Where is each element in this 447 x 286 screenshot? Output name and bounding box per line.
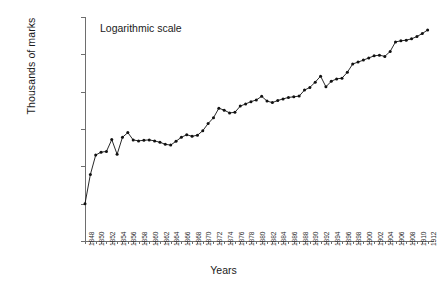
data-point bbox=[303, 89, 306, 92]
data-point bbox=[105, 150, 108, 153]
data-point bbox=[362, 59, 365, 62]
data-point bbox=[244, 102, 247, 105]
data-point bbox=[148, 138, 151, 141]
data-point bbox=[314, 81, 317, 84]
data-point bbox=[142, 139, 145, 142]
data-point bbox=[121, 136, 124, 139]
data-line bbox=[85, 30, 428, 204]
data-point bbox=[324, 85, 327, 88]
data-point bbox=[132, 138, 135, 141]
data-point bbox=[201, 129, 204, 132]
data-point bbox=[287, 96, 290, 99]
data-point bbox=[415, 35, 418, 38]
data-point bbox=[266, 100, 269, 103]
data-point bbox=[126, 131, 129, 134]
data-point bbox=[175, 140, 178, 143]
data-point bbox=[207, 122, 210, 125]
data-point bbox=[228, 111, 231, 114]
data-point bbox=[308, 86, 311, 89]
data-point bbox=[335, 77, 338, 80]
data-point bbox=[357, 61, 360, 64]
data-point bbox=[196, 134, 199, 137]
data-point bbox=[169, 144, 172, 147]
data-point bbox=[351, 63, 354, 66]
data-point bbox=[255, 98, 258, 101]
data-point bbox=[394, 40, 397, 43]
data-point bbox=[271, 101, 274, 104]
data-point bbox=[319, 75, 322, 78]
data-point bbox=[292, 95, 295, 98]
data-point bbox=[426, 28, 429, 31]
data-point bbox=[340, 77, 343, 80]
data-point bbox=[191, 135, 194, 138]
chart-figure: Thousands of marks Years Logarithmic sca… bbox=[0, 0, 447, 286]
data-point bbox=[110, 138, 113, 141]
data-point bbox=[239, 105, 242, 108]
data-point bbox=[158, 141, 161, 144]
data-point bbox=[137, 139, 140, 142]
data-point bbox=[223, 109, 226, 112]
data-point bbox=[217, 107, 220, 110]
data-point bbox=[233, 111, 236, 114]
data-point bbox=[367, 56, 370, 59]
data-point bbox=[180, 136, 183, 139]
data-point bbox=[399, 39, 402, 42]
data-point bbox=[421, 32, 424, 35]
data-point bbox=[378, 54, 381, 57]
data-point bbox=[94, 154, 97, 157]
data-point bbox=[100, 151, 103, 154]
data-point bbox=[346, 71, 349, 74]
data-point bbox=[276, 99, 279, 102]
data-point bbox=[330, 80, 333, 83]
data-point bbox=[164, 143, 167, 146]
data-point bbox=[383, 55, 386, 58]
data-point bbox=[89, 173, 92, 176]
data-point bbox=[212, 116, 215, 119]
data-point bbox=[282, 97, 285, 100]
data-point bbox=[260, 95, 263, 98]
data-point bbox=[373, 54, 376, 57]
data-point bbox=[249, 100, 252, 103]
data-point bbox=[185, 133, 188, 136]
data-point bbox=[298, 95, 301, 98]
data-point bbox=[410, 37, 413, 40]
data-series-layer bbox=[0, 0, 447, 286]
data-points bbox=[84, 28, 430, 205]
data-point bbox=[405, 39, 408, 42]
data-point bbox=[389, 50, 392, 53]
data-point bbox=[84, 202, 87, 205]
data-point bbox=[116, 153, 119, 156]
data-point bbox=[153, 139, 156, 142]
